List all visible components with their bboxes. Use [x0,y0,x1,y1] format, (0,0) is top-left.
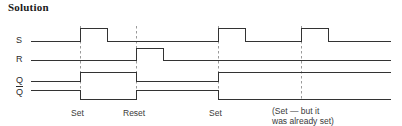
event-label: was already set) [272,116,334,126]
timing-diagram-figure: Solution S R Q Q SetResetSet(Set — but i… [0,0,402,126]
waveform-s [31,29,391,42]
waveform-q [31,73,391,82]
waveform-qbar [31,91,391,100]
event-label: Set [71,108,84,118]
event-label: Set [209,108,222,118]
waveform-canvas [0,0,402,126]
event-label: (Set — but it [272,106,319,116]
event-dashed-lines [81,26,302,101]
signal-traces [31,29,391,100]
waveform-r [31,49,391,61]
event-label: Reset [123,108,145,118]
